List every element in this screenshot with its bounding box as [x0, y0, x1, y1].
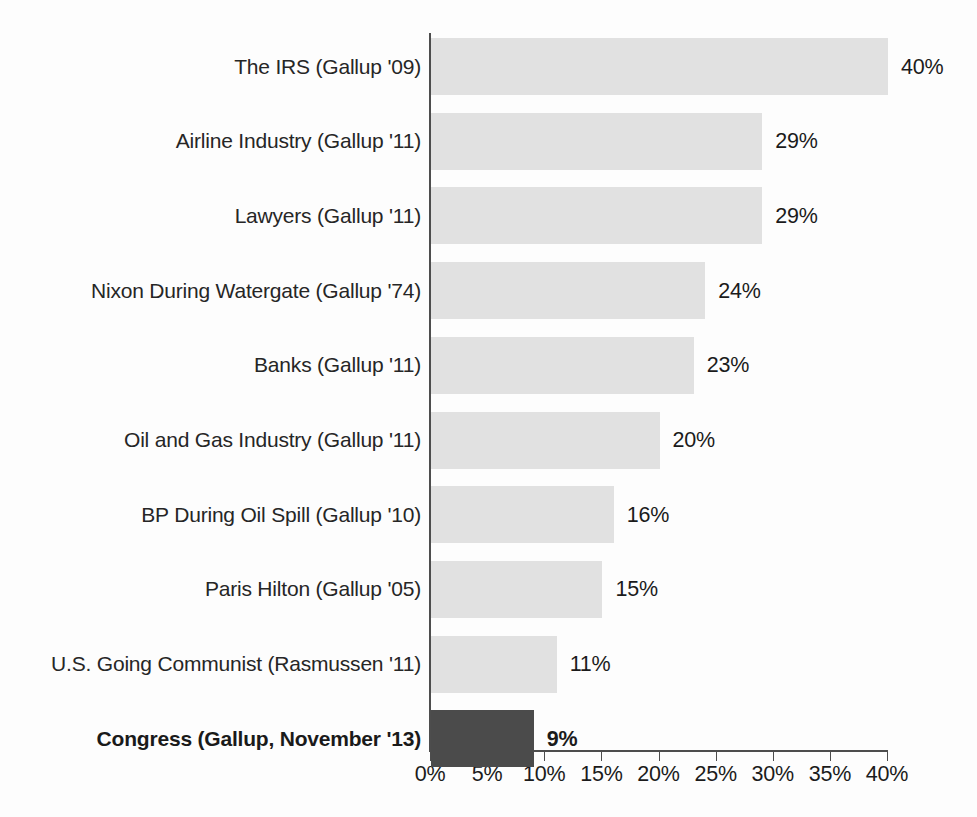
bar-row: The IRS (Gallup '09)40%	[0, 38, 977, 95]
bar	[431, 636, 557, 693]
bar-value-label: 40%	[901, 38, 943, 95]
bar-row: Paris Hilton (Gallup '05)15%	[0, 561, 977, 618]
bar	[431, 486, 614, 543]
category-label: Airline Industry (Gallup '11)	[176, 113, 421, 170]
bar	[431, 113, 762, 170]
category-label: Paris Hilton (Gallup '05)	[205, 561, 421, 618]
category-label: Congress (Gallup, November '13)	[97, 710, 421, 767]
bar	[431, 561, 602, 618]
bar-row: Oil and Gas Industry (Gallup '11)20%	[0, 412, 977, 469]
category-label: BP During Oil Spill (Gallup '10)	[141, 486, 421, 543]
category-label: Nixon During Watergate (Gallup '74)	[91, 262, 421, 319]
bar-row: Nixon During Watergate (Gallup '74)24%	[0, 262, 977, 319]
bar-value-label: 20%	[673, 412, 715, 469]
plot-area: 0%5%10%15%20%25%30%35%40% The IRS (Gallu…	[0, 0, 977, 817]
category-label: Lawyers (Gallup '11)	[235, 187, 421, 244]
bar	[431, 412, 660, 469]
bar-value-label: 11%	[570, 636, 611, 693]
bar	[431, 710, 534, 767]
bar-row: U.S. Going Communist (Rasmussen '11)11%	[0, 636, 977, 693]
bar-value-label: 16%	[627, 486, 669, 543]
category-label: Banks (Gallup '11)	[254, 337, 421, 394]
bar	[431, 262, 705, 319]
bar-chart: 0%5%10%15%20%25%30%35%40% The IRS (Gallu…	[0, 0, 977, 817]
bar-value-label: 24%	[718, 262, 760, 319]
bar	[431, 187, 762, 244]
bar-value-label: 29%	[775, 187, 817, 244]
category-label: The IRS (Gallup '09)	[234, 38, 421, 95]
bar-row: Airline Industry (Gallup '11)29%	[0, 113, 977, 170]
category-label: U.S. Going Communist (Rasmussen '11)	[51, 636, 421, 693]
bar-value-label: 29%	[775, 113, 817, 170]
bar-value-label: 9%	[547, 710, 578, 767]
bar	[431, 38, 888, 95]
bar-row: Lawyers (Gallup '11)29%	[0, 187, 977, 244]
bar-value-label: 15%	[615, 561, 657, 618]
category-label: Oil and Gas Industry (Gallup '11)	[124, 412, 421, 469]
bar	[431, 337, 694, 394]
bar-value-label: 23%	[707, 337, 749, 394]
bar-row: Congress (Gallup, November '13)9%	[0, 710, 977, 767]
bar-row: BP During Oil Spill (Gallup '10)16%	[0, 486, 977, 543]
bar-row: Banks (Gallup '11)23%	[0, 337, 977, 394]
